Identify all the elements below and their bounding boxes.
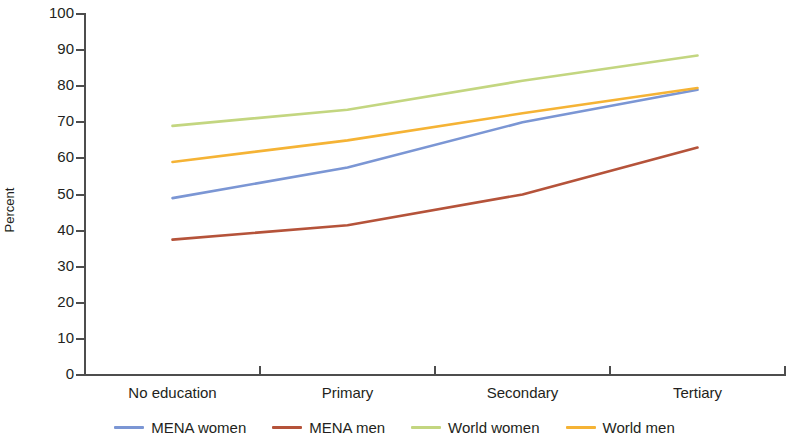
series-line <box>173 90 698 198</box>
legend-label: MENA women <box>151 419 246 436</box>
y-tick-label: 80 <box>4 77 74 92</box>
series-lines <box>85 14 785 375</box>
legend-label: World men <box>603 419 675 436</box>
legend-item[interactable]: World women <box>411 419 539 436</box>
legend-item[interactable]: MENA women <box>114 419 246 436</box>
legend-swatch-icon <box>566 426 596 429</box>
series-line <box>173 88 698 162</box>
legend-item[interactable]: World men <box>566 419 675 436</box>
y-tick-label: 100 <box>4 5 74 20</box>
y-tick-label: 20 <box>4 294 74 309</box>
plot-area <box>85 14 785 375</box>
legend-item[interactable]: MENA men <box>272 419 385 436</box>
y-axis-title: Percent <box>2 150 17 270</box>
legend-swatch-icon <box>411 426 441 429</box>
y-tick-label: 70 <box>4 113 74 128</box>
line-chart: Percent 0102030405060708090100 No educat… <box>0 0 789 448</box>
legend-label: World women <box>448 419 539 436</box>
y-tick-label: 0 <box>4 366 74 381</box>
legend: MENA womenMENA menWorld womenWorld men <box>0 419 789 436</box>
x-category-label: No education <box>128 384 216 401</box>
y-tick-label: 90 <box>4 41 74 56</box>
series-line <box>173 148 698 240</box>
y-tick-label: 60 <box>4 149 74 164</box>
x-category-label: Tertiary <box>673 384 722 401</box>
y-tick-label: 50 <box>4 186 74 201</box>
y-tick-label: 30 <box>4 258 74 273</box>
x-category-label: Primary <box>322 384 374 401</box>
legend-label: MENA men <box>309 419 385 436</box>
y-tick-label: 10 <box>4 330 74 345</box>
y-tick-label: 40 <box>4 222 74 237</box>
legend-swatch-icon <box>272 426 302 429</box>
legend-swatch-icon <box>114 426 144 429</box>
series-line <box>173 56 698 126</box>
x-category-label: Secondary <box>487 384 559 401</box>
